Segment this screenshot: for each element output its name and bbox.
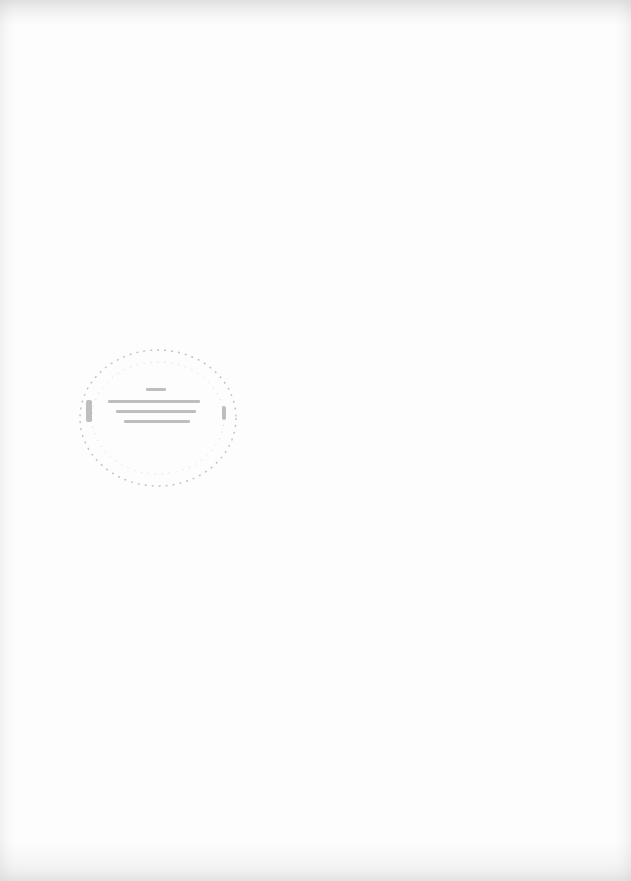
document-page (0, 0, 631, 881)
stamp-icon (58, 348, 278, 498)
faded-circular-stamp (58, 348, 278, 498)
scan-edge-top (0, 0, 631, 26)
scan-edge-bottom (0, 841, 631, 881)
